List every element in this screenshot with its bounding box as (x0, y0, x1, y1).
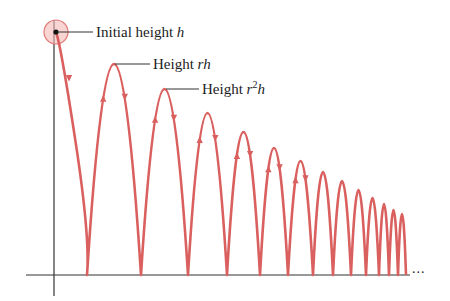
direction-arrows (66, 75, 309, 183)
ellipsis: ... (412, 261, 426, 276)
initial-height-label: Initial height h (96, 24, 184, 40)
height-r2h-label: Height r2h (202, 79, 265, 97)
height-rh-label: Height rh (153, 56, 211, 72)
bounce-curve (56, 32, 406, 275)
bouncing-ball-diagram: Initial height h Height rh Height r2h ..… (0, 0, 450, 301)
